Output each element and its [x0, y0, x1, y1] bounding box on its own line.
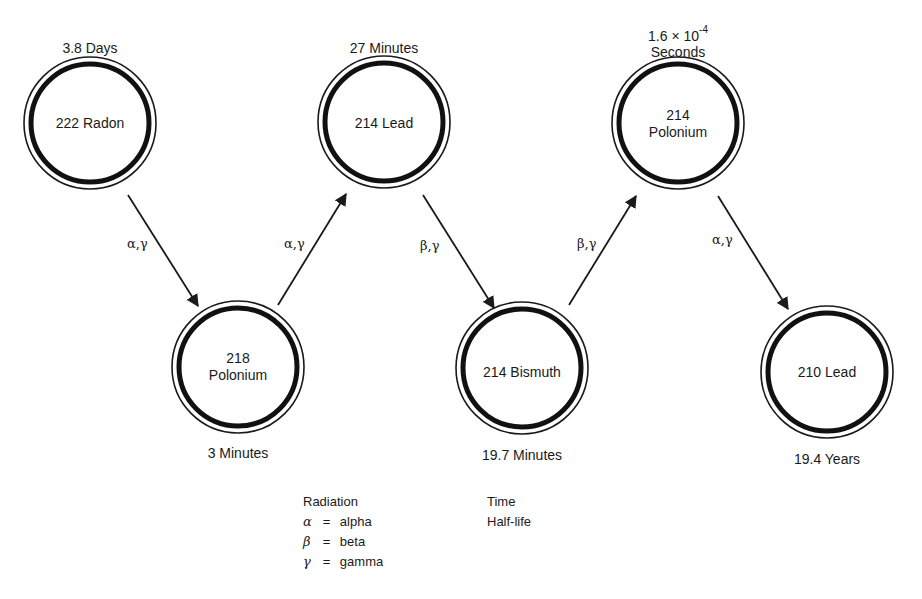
- node-label-polonium-214: 214 Polonium: [649, 107, 707, 141]
- node-label-polonium-218: 218 Polonium: [209, 350, 267, 384]
- legend-time-subtitle: Half-life: [487, 512, 531, 532]
- arrow-polonium214-to-lead210: [718, 196, 788, 309]
- legend-radiation: Radiation α = alpha β = beta γ = gamma: [303, 492, 383, 572]
- legend-time: Time Half-life: [487, 492, 531, 532]
- isotope-name: 222 Radon: [56, 115, 125, 132]
- isotope-mass: 218: [209, 350, 267, 367]
- half-life-exponent: -4: [699, 24, 708, 35]
- isotope-name: 210 Lead: [798, 364, 856, 381]
- half-life-radon-222: 3.8 Days: [62, 40, 117, 56]
- legend-radiation-title: Radiation: [303, 492, 383, 512]
- legend-item-name: gamma: [340, 554, 383, 569]
- node-label-radon-222: 222 Radon: [56, 115, 125, 132]
- legend-item-name: beta: [340, 534, 365, 549]
- node-label-lead-210: 210 Lead: [798, 364, 856, 381]
- legend-item-gamma: γ = gamma: [303, 552, 383, 572]
- gamma-symbol: γ: [303, 552, 317, 572]
- transition-label-4: β,γ: [577, 236, 596, 251]
- equals-sign: =: [323, 534, 331, 549]
- half-life-bismuth-214: 19.7 Minutes: [482, 447, 562, 463]
- isotope-name: 214 Bismuth: [483, 364, 561, 381]
- transition-label-1: α,γ: [127, 236, 148, 251]
- legend-item-name: alpha: [340, 514, 372, 529]
- isotope-name: 214 Lead: [355, 115, 413, 132]
- transition-label-5: α,γ: [712, 232, 733, 247]
- legend-item-beta: β = beta: [303, 532, 383, 552]
- isotope-name: Polonium: [209, 367, 267, 384]
- half-life-lead-210: 19.4 Years: [794, 451, 860, 467]
- beta-symbol: β: [303, 532, 317, 552]
- decay-chain-graphics: [0, 0, 922, 599]
- equals-sign: =: [323, 514, 331, 529]
- legend-time-title: Time: [487, 492, 531, 512]
- transition-label-3: β,γ: [420, 238, 439, 253]
- half-life-base: 1.6 × 10: [648, 28, 699, 44]
- legend-item-alpha: α = alpha: [303, 512, 383, 532]
- half-life-unit: Seconds: [648, 44, 708, 60]
- equals-sign: =: [323, 554, 331, 569]
- half-life-lead-214: 27 Minutes: [350, 40, 418, 56]
- node-label-lead-214: 214 Lead: [355, 115, 413, 132]
- isotope-name: Polonium: [649, 124, 707, 141]
- half-life-polonium-218: 3 Minutes: [208, 445, 269, 461]
- node-label-bismuth-214: 214 Bismuth: [483, 364, 561, 381]
- half-life-polonium-214: 1.6 × 10-4 Seconds: [648, 24, 708, 60]
- alpha-symbol: α: [303, 512, 317, 532]
- isotope-mass: 214: [649, 107, 707, 124]
- transition-label-2: α,γ: [284, 236, 305, 251]
